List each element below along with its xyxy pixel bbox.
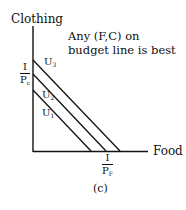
- annotation-text: Any (F,C) on budget line is best: [68, 29, 176, 57]
- y-intercept-denominator: Pc: [20, 74, 30, 86]
- curve-label-u2: U2: [42, 90, 54, 101]
- curve-label-u3: U3: [44, 57, 56, 68]
- x-axis-label: Food: [153, 145, 183, 157]
- curve-label-u1: U1: [42, 108, 54, 119]
- annotation-line-1: Any (F,C) on: [68, 29, 176, 43]
- indifference-line-u3: [33, 60, 120, 151]
- y-intercept-numerator: I: [20, 62, 30, 74]
- x-intercept-label: I PF: [102, 153, 113, 177]
- figure-caption: (c): [93, 183, 108, 194]
- x-intercept-denominator: PF: [102, 165, 113, 177]
- y-axis-label: Clothing: [11, 13, 63, 25]
- annotation-line-2: budget line is best: [68, 43, 176, 57]
- x-intercept-numerator: I: [102, 153, 113, 165]
- y-intercept-label: I Pc: [20, 62, 30, 86]
